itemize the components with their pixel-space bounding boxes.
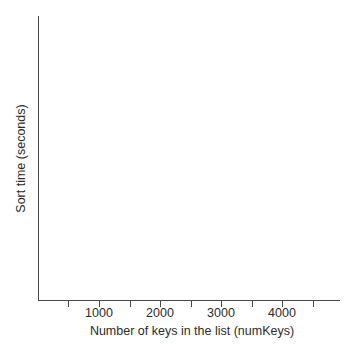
x-axis-tick-label: 2000 <box>146 306 174 320</box>
y-axis-title: Sort time (seconds) <box>10 16 32 301</box>
x-axis-tick-label: 3000 <box>207 306 235 320</box>
x-axis-tick <box>252 301 253 307</box>
x-axis-tick <box>313 301 314 307</box>
x-axis-tick <box>68 301 69 307</box>
x-axis-line <box>38 300 340 301</box>
sort-time-chart: 1000200030004000 Sort time (seconds) Num… <box>0 0 356 357</box>
x-axis-tick <box>130 301 131 307</box>
x-axis-title: Number of keys in the list (numKeys) <box>0 324 356 338</box>
y-axis-line <box>38 16 39 301</box>
x-axis-tick-label: 1000 <box>85 306 113 320</box>
plot-area <box>39 16 340 300</box>
x-axis-tick-label: 4000 <box>268 306 296 320</box>
x-axis-tick <box>191 301 192 307</box>
